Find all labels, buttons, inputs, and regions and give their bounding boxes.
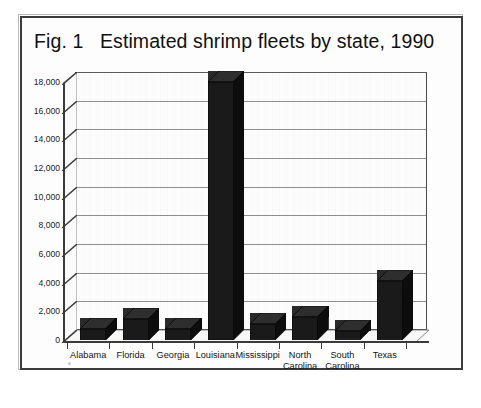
figure-inner-border (20, 16, 463, 370)
figure-root: Fig. 1 Estimated shrimp fleets by state,… (0, 0, 481, 408)
chart-title: Fig. 1 Estimated shrimp fleets by state,… (34, 26, 454, 56)
